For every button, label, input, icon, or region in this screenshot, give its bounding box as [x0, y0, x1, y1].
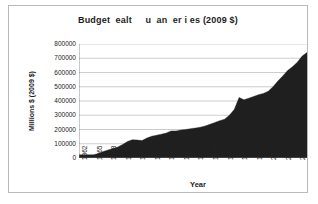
area-series-fill: [79, 53, 307, 158]
x-axis-tick-label: 2004: [286, 146, 293, 160]
chart-screenshot: Budget ealt u an er i es (2009 $) Millio…: [0, 0, 318, 204]
y-axis-tick-label: 700000: [41, 55, 76, 62]
y-axis-tick-label: 100000: [41, 141, 76, 148]
x-axis-tick-label: 1965: [97, 146, 104, 160]
x-axis-tick-label: 1968: [111, 146, 118, 160]
x-axis-tick-label: 1986: [198, 146, 205, 160]
y-axis-tick-label: 600000: [41, 69, 76, 76]
x-axis-tick-label: 2007: [300, 146, 307, 160]
chart-title: Budget ealt u an er i es (2009 $): [9, 15, 307, 25]
y-axis-title: Millions $ (2009 $): [28, 44, 40, 158]
x-axis-tick-label: 1974: [140, 146, 147, 160]
y-axis-tick-label: 200000: [41, 126, 76, 133]
y-axis-tick-label: 400000: [41, 98, 76, 105]
x-axis-title: Year: [79, 180, 317, 189]
x-axis-tick-label: 1977: [155, 146, 162, 160]
x-axis-tick-label: 1971: [126, 146, 133, 160]
x-axis-tick-label: 1992: [228, 146, 235, 160]
y-axis-tick-label: 500000: [41, 84, 76, 91]
x-axis-tick-label: 1989: [213, 146, 220, 160]
y-axis-tick-label: 0: [41, 155, 76, 162]
x-axis-tick-label: 1980: [169, 146, 176, 160]
y-axis-tick-label: 300000: [41, 112, 76, 119]
chart-frame: Budget ealt u an er i es (2009 $) Millio…: [8, 5, 308, 193]
y-axis-tick-labels: 0100000200000300000400000500000600000700…: [41, 44, 76, 158]
plot-area: [79, 44, 307, 158]
x-axis-tick-label: 1983: [184, 146, 191, 160]
x-axis-tick-labels: 1962196519681971197419771980198319861989…: [79, 158, 307, 180]
x-axis-tick-label: 1998: [257, 146, 264, 160]
x-axis-tick-label: 1962: [82, 146, 89, 160]
x-axis-tick-label: 1995: [242, 146, 249, 160]
y-axis-tick-label: 800000: [41, 41, 76, 48]
area-chart-plot: [79, 44, 307, 158]
x-axis-tick-label: 2001: [271, 146, 278, 160]
